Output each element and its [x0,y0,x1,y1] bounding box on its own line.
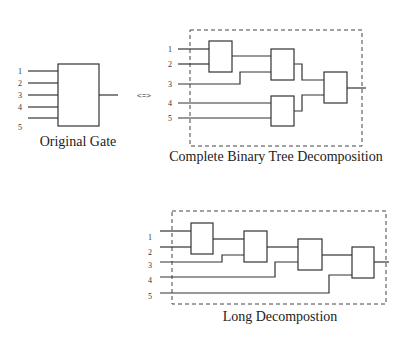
wire [294,95,324,111]
gate [271,49,294,80]
input-label-1: 1 [148,233,152,242]
input-label-2: 2 [18,79,22,88]
input-label-1: 1 [18,67,22,76]
input-label-4: 4 [148,276,152,285]
wire [160,255,244,262]
gate [209,41,232,72]
input-label-5: 5 [168,114,172,123]
gate [191,223,213,254]
input-label-3: 3 [18,91,22,100]
wire [178,72,271,84]
input-label-5: 5 [18,123,22,132]
input-label-3: 3 [168,80,172,89]
input-label-4: 4 [18,103,22,112]
input-label-3: 3 [148,261,152,270]
input-label-5: 5 [148,292,152,301]
gate [244,231,267,262]
wire [160,275,352,293]
long-decomposition-group: 1 2 3 4 5 Long Decompostion [148,211,389,324]
binary-tree-group: 1 2 3 4 5 Complete Binary Tree Decomposi… [168,30,383,164]
input-label-2: 2 [148,248,152,257]
gate [271,96,294,126]
binary-tree-caption: Complete Binary Tree Decomposition [169,149,382,164]
input-label-1: 1 [168,45,172,54]
wire [160,262,298,277]
original-caption: Original Gate [40,134,117,149]
wire [294,64,324,80]
equivalence-arrow: <=> [137,91,151,100]
decomposition-diagram: 1 2 3 4 5 Original Gate <=> 1 2 3 4 5 [0,0,408,340]
gate [298,239,322,270]
input-label-2: 2 [168,60,172,69]
gate [324,72,347,103]
original-gate-group: 1 2 3 4 5 Original Gate [18,64,118,149]
gate [352,247,374,278]
long-caption: Long Decompostion [223,309,338,324]
input-label-4: 4 [168,99,172,108]
original-gate [58,64,99,126]
